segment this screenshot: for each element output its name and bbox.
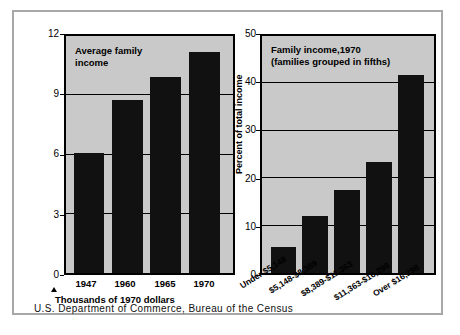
left-plot-area: Average family income — [64, 34, 235, 275]
right-plot-area: Family income,1970 (families grouped in … — [260, 34, 436, 275]
left-xlabel-1947: 1947 — [66, 278, 106, 289]
right-ytickmark-50 — [256, 34, 260, 35]
left-ytickmark-6 — [60, 155, 64, 156]
left-xlabel-1970: 1970 — [184, 278, 224, 289]
bar-over-16298 — [398, 75, 424, 273]
right-ytickmark-10 — [256, 227, 260, 228]
left-ytickmark-3 — [60, 215, 64, 216]
right-chart-title: Family income,1970 (families grouped in … — [271, 44, 390, 68]
left-ytick-6: 6 — [39, 149, 59, 159]
source-caption: U.S. Department of Commerce, Bureau of t… — [34, 303, 293, 314]
left-chart-title-line2: income — [75, 57, 142, 69]
bar-1965 — [150, 77, 181, 273]
left-xlabel-1965: 1965 — [145, 278, 185, 289]
left-ytick-3: 3 — [39, 210, 59, 220]
left-ytick-0: 0 — [39, 270, 59, 280]
bar-1947 — [74, 153, 105, 273]
left-ytickmark-0 — [60, 275, 64, 276]
right-ytickmark-30 — [256, 130, 260, 131]
right-ytickmark-40 — [256, 82, 260, 83]
left-ytickmark-12 — [60, 34, 64, 35]
figure-frame: Average family income 0 3 6 9 12 1947 19… — [12, 10, 443, 315]
chart-average-family-income: Average family income 0 3 6 9 12 1947 19… — [39, 24, 239, 294]
right-ytick-50: 50 — [236, 29, 256, 39]
right-ytickmark-20 — [256, 179, 260, 180]
left-ytick-9: 9 — [39, 89, 59, 99]
right-y-axis-label: Percent of total income — [234, 74, 244, 174]
bar-11363-16298 — [366, 162, 392, 273]
left-chart-title: Average family income — [75, 45, 142, 69]
left-ytick-12: 12 — [39, 29, 59, 39]
right-chart-title-line1: Family income,1970 — [271, 44, 390, 56]
right-ytick-20: 20 — [236, 174, 256, 184]
right-chart-title-line2: (families grouped in fifths) — [271, 56, 390, 68]
left-chart-title-line1: Average family — [75, 45, 142, 57]
left-xlabel-1960: 1960 — [105, 278, 145, 289]
bar-1970 — [189, 52, 220, 273]
right-ytick-10: 10 — [236, 222, 256, 232]
chart-family-income-1970: Family income,1970 (families grouped in … — [236, 24, 446, 324]
left-ytickmark-9 — [60, 94, 64, 95]
axis-caption-arrow-icon — [51, 287, 57, 292]
bar-1960 — [112, 100, 143, 273]
